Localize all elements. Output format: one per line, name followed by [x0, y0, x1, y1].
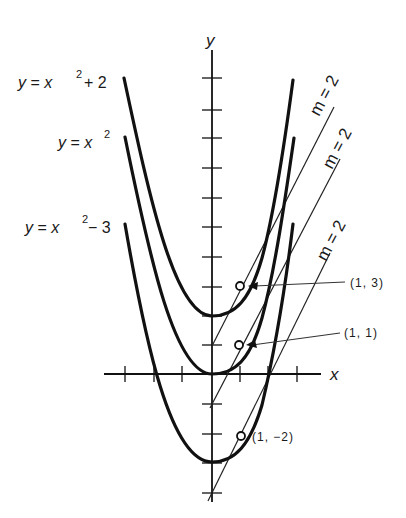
svg-text:− 3: − 3 — [88, 219, 111, 236]
parabola-tangent-diagram: x y — [0, 0, 406, 518]
curve-labels: y = x 2 + 2 y = x 2 y = x 2 − 3 — [17, 68, 111, 236]
curve-label-3: y = x — [24, 219, 60, 236]
y-axis-label: y — [205, 31, 216, 50]
parabola-x2 — [125, 137, 294, 374]
point-arrows — [246, 282, 345, 348]
point-label-1-3: (1, 3) — [350, 276, 384, 290]
point-label-1-neg2: (1, −2) — [252, 430, 294, 444]
curve-label-2: y = x — [57, 134, 93, 151]
point-1-1 — [235, 341, 243, 349]
slope-labels: m = 2 m = 2 m = 2 — [306, 72, 356, 264]
slope-label-1: m = 2 — [306, 72, 343, 119]
parabola-x2-plus-2 — [124, 78, 293, 316]
svg-text:2: 2 — [76, 68, 82, 80]
x-axis-label: x — [329, 365, 339, 384]
axes: x y — [104, 31, 339, 502]
point-label-1-1: (1, 1) — [344, 326, 378, 340]
svg-text:2: 2 — [104, 128, 110, 140]
slope-label-3: m = 2 — [313, 217, 350, 264]
curve-label-1: y = x — [17, 74, 53, 91]
point-1-3 — [236, 282, 244, 290]
point-1-neg2 — [237, 432, 245, 440]
slope-label-2: m = 2 — [319, 125, 356, 172]
svg-text:+ 2: + 2 — [84, 74, 107, 91]
